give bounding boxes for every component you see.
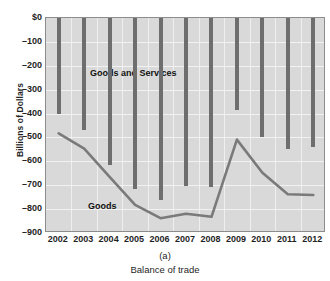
bar-goods-and-services <box>184 18 188 186</box>
annotation-goods: Goods <box>88 201 117 211</box>
y-tick-label: –100 <box>8 36 42 46</box>
y-tick-label: –800 <box>8 203 42 213</box>
bar-goods-and-services <box>209 18 213 187</box>
x-axis-title: Balance of trade <box>0 264 330 275</box>
bar-goods-and-services <box>260 18 264 137</box>
bar-goods-and-services <box>108 18 112 165</box>
balance-of-trade-figure: Billions of Dollars $0–100–200–300–400–5… <box>0 0 330 281</box>
bar-goods-and-services <box>286 18 290 149</box>
y-tick-label: $0 <box>8 12 42 22</box>
bar-goods-and-services <box>159 18 163 200</box>
y-tick-label: –500 <box>8 131 42 141</box>
y-axis-tick-labels: $0–100–200–300–400–500–600–700–800–900 <box>4 0 42 281</box>
plot-area: Goods and Services Goods <box>45 17 325 232</box>
y-tick-label: –700 <box>8 179 42 189</box>
y-tick-label: –400 <box>8 108 42 118</box>
y-tick-label: –200 <box>8 60 42 70</box>
bar-goods-and-services <box>133 18 137 189</box>
plot-area-wrapper: Goods and Services Goods <box>45 17 325 232</box>
y-tick-label: –900 <box>8 227 42 237</box>
bar-goods-and-services <box>235 18 239 110</box>
x-axis-tick-labels: 2002200320042005200620072008200920102011… <box>45 234 325 248</box>
bar-goods-and-services <box>82 18 86 130</box>
bar-goods-and-services <box>311 18 315 147</box>
bar-goods-and-services <box>57 18 61 114</box>
y-tick-label: –300 <box>8 84 42 94</box>
y-tick-label: –600 <box>8 155 42 165</box>
clipped-text-artifact <box>52 0 172 7</box>
x-tick-label: 2012 <box>297 234 327 244</box>
panel-label: (a) <box>0 250 330 261</box>
